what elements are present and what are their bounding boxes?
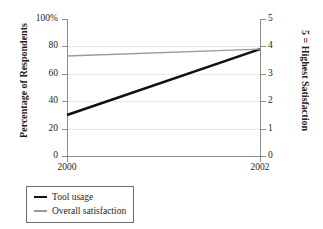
series-line [67, 49, 260, 56]
legend-item-tool-usage: Tool usage [34, 192, 93, 202]
chart-legend: Tool usage Overall satisfaction [26, 186, 134, 223]
series-line [67, 49, 260, 115]
legend-item-label: Tool usage [52, 192, 93, 202]
legend-line-swatch-icon [34, 196, 47, 199]
legend-line-swatch-icon [34, 210, 47, 211]
legend-item-label: Overall satisfaction [52, 206, 126, 216]
line-chart-figure: Percentage of Respondents 5 = Highest Sa… [0, 0, 323, 229]
legend-item-overall-satisfaction: Overall satisfaction [34, 206, 126, 216]
